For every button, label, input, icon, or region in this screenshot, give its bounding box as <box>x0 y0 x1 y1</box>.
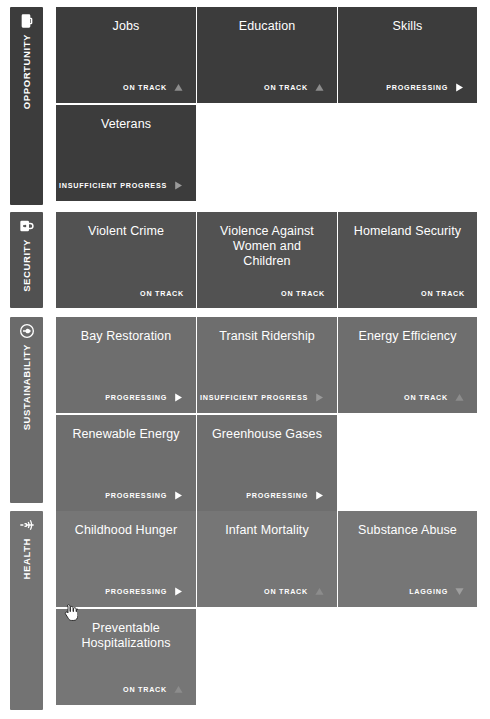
goal-tile[interactable]: Transit RidershipINSUFFICIENT PROGRESS <box>197 317 337 413</box>
goal-tile[interactable]: Substance AbuseLAGGING <box>338 511 477 607</box>
status-label: ON TRACK <box>421 289 465 298</box>
status-down-triangle <box>454 586 465 597</box>
status-up-triangle <box>454 392 465 403</box>
goal-tile-status: PROGRESSING <box>66 392 186 405</box>
goal-tile-status: ON TRACK <box>348 392 467 405</box>
status-right-triangle <box>173 180 184 191</box>
section-label-opportunity: OPPORTUNITY <box>22 34 32 109</box>
goal-tile-title: Preventable Hospitalizations <box>66 621 186 651</box>
status-right-triangle <box>314 392 325 403</box>
status-up-triangle <box>314 586 325 597</box>
goal-tile-title: Bay Restoration <box>66 329 186 344</box>
status-label: INSUFFICIENT PROGRESS <box>59 181 167 190</box>
goal-tile-status: ON TRACK <box>207 82 327 95</box>
goal-tile-status: INSUFFICIENT PROGRESS <box>207 392 327 405</box>
goal-tile[interactable]: Childhood HungerPROGRESSING <box>56 511 196 607</box>
briefcase-icon <box>19 13 35 29</box>
goal-tile-title: Education <box>207 19 327 34</box>
goal-tile-status: ON TRACK <box>207 289 327 300</box>
leaf-circle-icon <box>19 323 35 339</box>
goal-tile-status: ON TRACK <box>207 586 327 599</box>
status-right-triangle <box>454 82 465 93</box>
goal-tile-status: INSUFFICIENT PROGRESS <box>66 180 186 193</box>
goal-tile[interactable]: Violence Against Women and ChildrenON TR… <box>197 212 337 308</box>
goal-tile-title: Childhood Hunger <box>66 523 186 538</box>
goal-tile[interactable]: SkillsPROGRESSING <box>338 7 477 103</box>
goal-tile[interactable]: VeteransINSUFFICIENT PROGRESS <box>56 105 196 201</box>
goal-tile-status: PROGRESSING <box>207 490 327 503</box>
status-label: PROGRESSING <box>386 83 448 92</box>
status-label: LAGGING <box>409 587 448 596</box>
goal-tile-status: ON TRACK <box>66 289 186 300</box>
section-label-security: SECURITY <box>22 239 32 292</box>
goal-tile-title: Skills <box>348 19 467 34</box>
goal-tile-title: Jobs <box>66 19 186 34</box>
status-label: PROGRESSING <box>105 393 167 402</box>
section-rail-health[interactable]: HEALTH <box>10 511 43 710</box>
goal-tile[interactable]: Preventable HospitalizationsON TRACK <box>56 609 196 705</box>
status-label: ON TRACK <box>281 289 325 298</box>
goal-tile-title: Violent Crime <box>66 224 186 239</box>
goal-tile[interactable]: EducationON TRACK <box>197 7 337 103</box>
status-right-triangle <box>173 490 184 501</box>
status-label: PROGRESSING <box>105 587 167 596</box>
goal-tile[interactable]: Violent CrimeON TRACK <box>56 212 196 308</box>
section-label-health: HEALTH <box>22 538 32 579</box>
goal-tile[interactable]: Homeland SecurityON TRACK <box>338 212 477 308</box>
dashboard-root: OPPORTUNITYJobsON TRACKEducationON TRACK… <box>0 0 490 719</box>
goal-tile-title: Veterans <box>66 117 186 132</box>
goal-tile-title: Homeland Security <box>348 224 467 239</box>
goal-tile-status: ON TRACK <box>348 289 467 300</box>
status-label: PROGRESSING <box>105 491 167 500</box>
caduceus-icon <box>19 517 35 533</box>
section-rail-sustainability[interactable]: SUSTAINABILITY <box>10 317 43 503</box>
section-rail-security[interactable]: SECURITY <box>10 212 43 308</box>
status-label: ON TRACK <box>264 83 308 92</box>
goal-tile-status: PROGRESSING <box>66 490 186 503</box>
status-label: ON TRACK <box>264 587 308 596</box>
status-label: ON TRACK <box>123 83 167 92</box>
goal-tile-status: ON TRACK <box>66 82 186 95</box>
goal-tile-status: PROGRESSING <box>66 586 186 599</box>
status-label: PROGRESSING <box>246 491 308 500</box>
status-right-triangle <box>314 490 325 501</box>
goal-tile[interactable]: Energy EfficiencyON TRACK <box>338 317 477 413</box>
goal-tile[interactable]: Renewable EnergyPROGRESSING <box>56 415 196 511</box>
status-right-triangle <box>173 586 184 597</box>
goal-tile-title: Transit Ridership <box>207 329 327 344</box>
goal-tile-title: Energy Efficiency <box>348 329 467 344</box>
goal-tile[interactable]: Bay RestorationPROGRESSING <box>56 317 196 413</box>
goal-tile-title: Substance Abuse <box>348 523 467 538</box>
status-label: ON TRACK <box>404 393 448 402</box>
status-up-triangle <box>314 82 325 93</box>
section-rail-opportunity[interactable]: OPPORTUNITY <box>10 7 43 205</box>
status-up-triangle <box>173 684 184 695</box>
goal-tile-title: Greenhouse Gases <box>207 427 327 442</box>
status-up-triangle <box>173 82 184 93</box>
goal-tile-title: Renewable Energy <box>66 427 186 442</box>
status-label: ON TRACK <box>123 685 167 694</box>
status-label: ON TRACK <box>140 289 184 298</box>
goal-tile[interactable]: Greenhouse GasesPROGRESSING <box>197 415 337 511</box>
goal-tile-title: Violence Against Women and Children <box>207 224 327 269</box>
section-label-sustainability: SUSTAINABILITY <box>22 344 32 430</box>
status-right-triangle <box>173 392 184 403</box>
status-label: INSUFFICIENT PROGRESS <box>200 393 308 402</box>
goal-tile-title: Infant Mortality <box>207 523 327 538</box>
lock-icon <box>19 218 35 234</box>
goal-tile-status: PROGRESSING <box>348 82 467 95</box>
goal-tile-status: LAGGING <box>348 586 467 599</box>
goal-tile-status: ON TRACK <box>66 684 186 697</box>
goal-tile[interactable]: Infant MortalityON TRACK <box>197 511 337 607</box>
goal-tile[interactable]: JobsON TRACK <box>56 7 196 103</box>
